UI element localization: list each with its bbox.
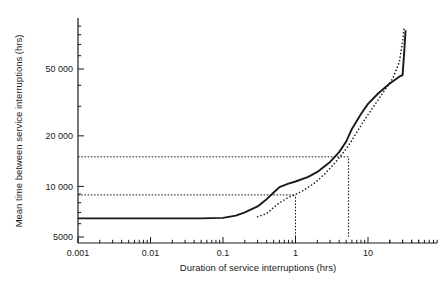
y-tick-label: 10 000 [45,182,73,192]
x-tick-label: 1 [293,248,298,258]
x-tick-label: 10 [363,248,373,258]
y-axis-title: Mean time between service interruptions … [13,35,24,228]
x-tick-label: 0.01 [142,248,160,258]
y-tick-label: 20 000 [45,131,73,141]
x-axis-title: Duration of service interruptions (hrs) [180,262,336,273]
y-tick-label: 50 000 [45,64,73,74]
chart-figure: 0.0010.010.1110 500010 00020 00050 000 D… [0,0,444,285]
chart-svg: 0.0010.010.1110 500010 00020 00050 000 D… [0,0,444,285]
x-tick-label: 0.001 [67,248,90,258]
x-tick-label: 0.1 [217,248,230,258]
y-tick-label: 5000 [53,232,73,242]
